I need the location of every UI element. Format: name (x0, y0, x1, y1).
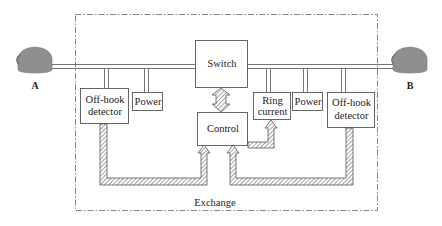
offhook-left-label-1: Off-hook (81, 94, 129, 105)
telephone-icon (17, 47, 52, 73)
offhook-right-label-2: detector (328, 110, 375, 121)
power-right-label: Power (293, 96, 323, 107)
telephone-icon (392, 47, 427, 73)
offhook-left-to-control-arrow (100, 124, 210, 185)
endpoint-a-label: A (28, 80, 42, 91)
switch-label: Switch (196, 58, 248, 69)
endpoint-b-label: B (403, 80, 417, 91)
ring-current-label-2: current (254, 106, 291, 117)
diagram-canvas (0, 0, 442, 226)
offhook-left-label-2: detector (81, 106, 129, 117)
control-to-ring-arrow (248, 120, 277, 148)
power-left-label: Power (133, 96, 163, 107)
control-label: Control (198, 123, 248, 134)
switch-control-arrow (212, 88, 230, 112)
exchange-label: Exchange (190, 197, 240, 208)
ring-current-label-1: Ring (254, 95, 291, 106)
offhook-right-label-1: Off-hook (328, 97, 375, 108)
